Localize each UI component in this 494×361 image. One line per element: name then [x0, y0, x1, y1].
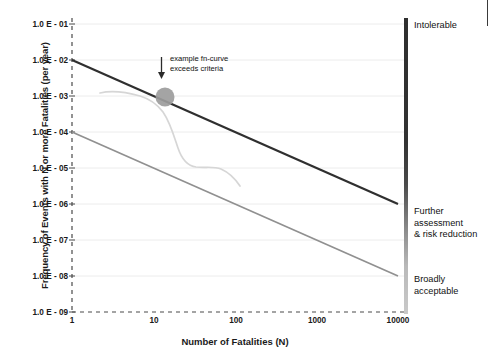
risk-zone-gradient-bar	[404, 18, 408, 314]
zone-label-further-assessment: Further assessment & risk reduction	[414, 206, 477, 241]
fn-curve-chart: Frequency of Events with N or more Fatal…	[0, 0, 494, 361]
gridlines	[72, 24, 404, 276]
zone-label-broadly-acceptable: Broadly acceptable	[414, 274, 458, 297]
exceedance-annotation-text: example fn-curve exceeds criteria	[170, 54, 228, 73]
page-edge-rule	[487, 0, 488, 26]
fn-curve-series	[100, 92, 240, 186]
exceedance-marker	[156, 88, 175, 107]
plot-area	[0, 0, 494, 361]
zone-label-intolerable: Intolerable	[414, 20, 457, 32]
